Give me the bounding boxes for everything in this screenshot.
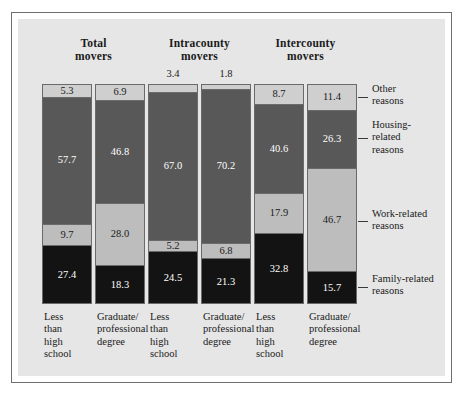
bar-segment: 46.7 — [308, 168, 356, 271]
category-label: Lessthanhighschool — [44, 311, 100, 361]
category-label-line: high — [256, 336, 312, 348]
legend-tick — [358, 97, 368, 98]
category-label-line: than — [150, 323, 206, 335]
category-label: Lessthanhighschool — [150, 311, 206, 361]
category-label-line: Less — [256, 311, 312, 323]
segment-value-label: 70.2 — [217, 161, 235, 172]
group-title-line: Intracounty — [148, 37, 251, 50]
stacked-bar: 8.740.617.932.8 — [254, 84, 304, 304]
figure-frame: Totalmovers5.357.79.727.4Lessthanhighsch… — [11, 12, 452, 383]
legend-entry-line: reasons — [372, 285, 452, 297]
category-label-line: Less — [150, 311, 206, 323]
plot-area: Totalmovers5.357.79.727.4Lessthanhighsch… — [18, 19, 445, 376]
segment-value-label: 27.4 — [58, 270, 76, 281]
segment-value-label: 8.7 — [272, 89, 285, 100]
category-label-line: Graduate/ — [97, 311, 153, 323]
segment-value-label: 67.0 — [164, 161, 182, 172]
bar-segment: 11.4 — [308, 85, 356, 110]
bar-segment: 5.2 — [149, 240, 197, 251]
category-label-line: degree — [309, 336, 365, 348]
segment-value-label: 28.0 — [111, 229, 129, 240]
bar-segment — [149, 85, 197, 92]
bar-segment: 17.9 — [255, 193, 303, 232]
category-label-line: high — [150, 336, 206, 348]
bar-segment: 27.4 — [43, 245, 91, 304]
bar-segment: 5.3 — [43, 85, 91, 97]
category-label-line: school — [150, 348, 206, 360]
segment-value-label: 17.9 — [270, 208, 288, 219]
legend-entry-line: reasons — [372, 95, 452, 107]
segment-value-label: 46.8 — [111, 147, 129, 158]
legend-tick — [358, 138, 368, 139]
legend-tick — [358, 287, 368, 288]
bar-segment: 9.7 — [43, 224, 91, 245]
segment-value-label: 5.2 — [166, 241, 179, 251]
group-title-line: Intercounty — [254, 37, 357, 50]
stacked-bar: 5.357.79.727.4 — [42, 84, 92, 304]
bar-segment: 18.3 — [96, 265, 144, 304]
legend-entry-line: reasons — [372, 144, 452, 156]
legend-entry-line: related — [372, 131, 452, 143]
bar-segment: 67.0 — [149, 92, 197, 239]
category-label: Graduate/professionaldegree — [97, 311, 153, 348]
bar-segment: 26.3 — [308, 110, 356, 168]
legend-tick — [358, 221, 368, 222]
category-label-line: degree — [203, 336, 259, 348]
bar-segment: 46.8 — [96, 100, 144, 203]
group-title-line: movers — [254, 50, 357, 63]
category-label-line: school — [44, 348, 100, 360]
legend-entry: Otherreasons — [372, 83, 452, 108]
segment-value-label: 40.6 — [270, 144, 288, 155]
category-label-line: professional — [309, 323, 365, 335]
group-title-1: Totalmovers — [42, 37, 145, 63]
bar-segment: 8.7 — [255, 85, 303, 104]
group-title-2: Intracountymovers — [148, 37, 251, 63]
category-label-line: professional — [97, 323, 153, 335]
bar-segment: 6.9 — [96, 85, 144, 100]
bar-segment: 32.8 — [255, 233, 303, 304]
bar-segment: 28.0 — [96, 203, 144, 265]
legend-entry-line: Work-related — [372, 208, 452, 220]
segment-value-label: 26.3 — [323, 134, 341, 145]
category-label-line: Less — [44, 311, 100, 323]
bar-segment: 40.6 — [255, 104, 303, 193]
segment-value-label: 32.8 — [270, 264, 288, 275]
stacked-bar: 11.426.346.715.7 — [307, 84, 357, 304]
group-title-line: Total — [42, 37, 145, 50]
segment-value-label: 9.7 — [60, 230, 73, 241]
bar-segment: 70.2 — [202, 89, 250, 243]
category-label-line: degree — [97, 336, 153, 348]
legend-entry: Family-relatedreasons — [372, 273, 452, 298]
category-label-line: school — [256, 348, 312, 360]
legend-entry: Work-relatedreasons — [372, 208, 452, 233]
category-label-line: than — [44, 323, 100, 335]
segment-value-label-outside: 3.4 — [148, 68, 198, 79]
stacked-bar: 70.26.821.3 — [201, 84, 251, 304]
legend-entry-line: Other — [372, 83, 452, 95]
segment-value-label: 6.8 — [219, 246, 232, 257]
category-label: Graduate/professionaldegree — [309, 311, 365, 348]
legend-entry: Housing-relatedreasons — [372, 119, 452, 156]
segment-value-label: 5.3 — [60, 86, 73, 97]
group-title-line: movers — [42, 50, 145, 63]
segment-value-label: 57.7 — [58, 155, 76, 166]
legend-entry-line: Family-related — [372, 273, 452, 285]
category-label-line: than — [256, 323, 312, 335]
category-label-line: professional — [203, 323, 259, 335]
segment-value-label-outside: 1.8 — [201, 68, 251, 79]
category-label-line: Graduate/ — [203, 311, 259, 323]
segment-value-label: 15.7 — [323, 283, 341, 294]
segment-value-label: 18.3 — [111, 280, 129, 291]
segment-value-label: 21.3 — [217, 277, 235, 288]
bar-segment: 15.7 — [308, 271, 356, 304]
bar-segment: 24.5 — [149, 251, 197, 304]
group-title-line: movers — [148, 50, 251, 63]
legend-entry-line: reasons — [372, 220, 452, 232]
segment-value-label: 46.7 — [323, 215, 341, 226]
segment-value-label: 6.9 — [113, 87, 126, 98]
bar-segment: 21.3 — [202, 258, 250, 304]
segment-value-label: 11.4 — [323, 92, 341, 103]
segment-value-label: 24.5 — [164, 273, 182, 284]
category-label: Lessthanhighschool — [256, 311, 312, 361]
bar-segment: 57.7 — [43, 97, 91, 224]
